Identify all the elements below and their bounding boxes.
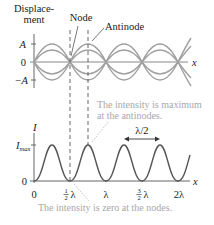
displacement-label-line1: Displace- <box>14 3 55 14</box>
antinode-callout: Antinode <box>105 21 144 32</box>
standing-wave-diagram: Displace- ment A 0 −A x Node Antinode Th… <box>0 0 214 225</box>
svg-text:λ: λ <box>70 189 76 200</box>
svg-text:2: 2 <box>64 194 67 201</box>
intensity-plot: I Imax 0 x 0 1 2 λ λ 3 2 λ 2λ λ/2 <box>15 121 198 201</box>
max-annotation-line2: at the antinodes. <box>97 110 162 121</box>
tick-x-half-lambda: 1 2 λ <box>64 187 77 201</box>
zero-annotation: The intensity is zero at the nodes. <box>38 202 172 213</box>
svg-text:λ: λ <box>143 189 149 200</box>
half-wavelength-label: λ/2 <box>135 125 148 136</box>
intensity-x-label: x <box>192 176 198 187</box>
tick-zero: 0 <box>21 57 26 68</box>
tick-intensity-zero: 0 <box>22 176 27 187</box>
intensity-curve <box>34 145 190 181</box>
tick-x-0: 0 <box>31 189 36 200</box>
svg-text:1: 1 <box>64 187 67 194</box>
tick-minus-A: −A <box>15 75 29 86</box>
node-callout: Node <box>70 12 93 23</box>
tick-x-three-halves-lambda: 3 2 λ <box>137 187 150 201</box>
svg-text:2: 2 <box>137 194 140 201</box>
max-annotation-line1: The intensity is maximum <box>97 99 202 110</box>
displacement-label-line2: ment <box>24 14 45 25</box>
displacement-plot: Displace- ment A 0 −A x Node Antinode <box>14 3 197 88</box>
tick-x-lambda: λ <box>103 189 109 200</box>
tick-A: A <box>19 39 27 50</box>
intensity-axis-label: I <box>32 121 38 133</box>
svg-text:3: 3 <box>137 187 140 194</box>
tick-x-two-lambda: 2λ <box>174 189 185 200</box>
tick-Imax: Imax <box>15 140 30 152</box>
half-wavelength-arrow: λ/2 <box>124 125 160 142</box>
displacement-x-label: x <box>191 57 197 68</box>
